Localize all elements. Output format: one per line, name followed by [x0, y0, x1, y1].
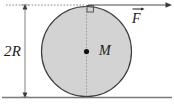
- force-label-text: F: [132, 11, 141, 26]
- center-of-mass-dot: [84, 49, 89, 54]
- vector-arrow-icon: [132, 6, 145, 12]
- diameter-label: 2R: [4, 44, 21, 59]
- diagram-canvas: [0, 0, 174, 106]
- force-label-group: F: [132, 12, 141, 26]
- mass-label: M: [99, 44, 111, 58]
- diameter-dimension-line: [21, 4, 29, 99]
- force-vector-arrow: [88, 2, 172, 8]
- physics-diagram: 2R M F: [0, 0, 174, 106]
